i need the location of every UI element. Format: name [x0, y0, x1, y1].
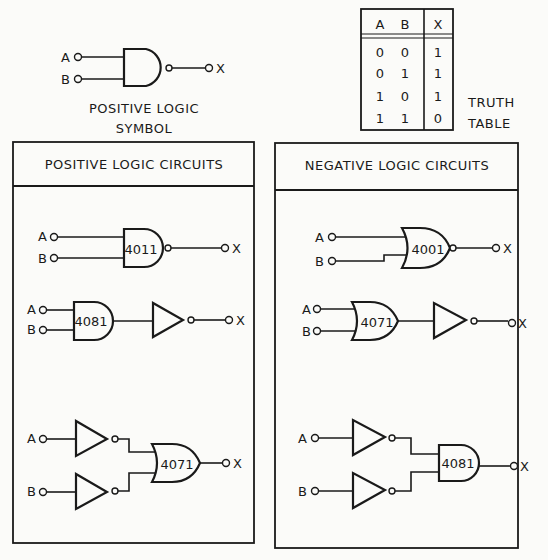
negative-circuit-4071: A B 4071 X — [302, 302, 527, 340]
output-label: X — [232, 241, 241, 256]
positive-logic-panel: POSITIVE LOGIC CIRCUITS A B 4011 X A B 4 — [13, 142, 254, 543]
positive-logic-symbol: A B X POSITIVE LOGIC SYMBOL — [61, 49, 225, 136]
inverter-icon — [76, 474, 107, 509]
input-b-label: B — [298, 484, 307, 499]
positive-circuit-4081: A B 4081 X — [27, 302, 245, 340]
truth-table-header-a: A — [376, 17, 385, 32]
positive-circuit-4071: A B 4071 X — [27, 421, 242, 509]
symbol-output-label: X — [216, 61, 225, 76]
symbol-caption-line2: SYMBOL — [116, 121, 173, 136]
negative-circuit-4001: A B 4001 X — [315, 228, 512, 269]
output-label: X — [520, 459, 529, 474]
truth-table-cell: 1 — [434, 89, 442, 104]
chip-label: 4081 — [441, 456, 474, 471]
positive-circuit-4011: A B 4011 X — [38, 229, 241, 267]
input-a-label: A — [302, 302, 311, 317]
truth-table: A B X 0 0 1 0 1 1 1 0 1 1 1 0 TRUTH TABL… — [361, 9, 515, 131]
input-terminal-icon — [75, 54, 82, 61]
logic-diagram: A B X POSITIVE LOGIC SYMBOL A B X 0 0 1 … — [0, 0, 548, 560]
inverter-icon — [153, 303, 183, 337]
symbol-input-b-label: B — [61, 72, 70, 87]
truth-table-cell: 1 — [434, 45, 442, 60]
truth-table-cell: 0 — [401, 89, 409, 104]
inverter-icon — [353, 420, 385, 455]
chip-label: 4001 — [411, 242, 444, 257]
truth-table-cell: 1 — [434, 66, 442, 81]
positive-panel-title: POSITIVE LOGIC CIRCUITS — [45, 157, 224, 172]
input-a-label: A — [315, 230, 324, 245]
chip-label: 4071 — [360, 315, 393, 330]
input-terminal-icon — [75, 76, 82, 83]
output-label: X — [518, 316, 527, 331]
symbol-input-a-label: A — [61, 50, 70, 65]
chip-label: 4081 — [74, 314, 107, 329]
truth-table-cell: 0 — [401, 45, 409, 60]
nand-gate-icon — [124, 49, 161, 86]
input-a-label: A — [27, 431, 36, 446]
truth-table-cell: 1 — [376, 89, 384, 104]
input-b-label: B — [315, 254, 324, 269]
input-a-label: A — [38, 229, 47, 244]
inverter-icon — [76, 421, 107, 456]
truth-table-header-x: X — [434, 17, 443, 32]
truth-table-cell: 0 — [434, 111, 442, 126]
input-b-label: B — [27, 484, 36, 499]
truth-table-cell: 0 — [376, 66, 384, 81]
truth-table-cell: 0 — [376, 45, 384, 60]
negative-circuit-4081: A B 4081 X — [298, 420, 529, 508]
truth-table-caption-line2: TABLE — [467, 116, 511, 131]
truth-table-cell: 1 — [401, 66, 409, 81]
truth-table-header-b: B — [401, 17, 410, 32]
output-label: X — [236, 313, 245, 328]
negative-logic-panel: NEGATIVE LOGIC CIRCUITS A B 4001 X A B 4 — [275, 143, 529, 548]
chip-label: 4011 — [124, 242, 157, 257]
input-b-label: B — [302, 324, 311, 339]
input-a-label: A — [27, 302, 36, 317]
symbol-caption-line1: POSITIVE LOGIC — [89, 101, 199, 116]
inverter-icon — [353, 473, 385, 508]
output-label: X — [233, 456, 242, 471]
output-terminal-icon — [206, 65, 213, 72]
truth-table-cell: 1 — [376, 111, 384, 126]
input-b-label: B — [38, 251, 47, 266]
chip-label: 4071 — [160, 457, 193, 472]
inverter-icon — [434, 303, 466, 338]
output-label: X — [503, 241, 512, 256]
inversion-bubble-icon — [166, 65, 172, 71]
negative-panel-title: NEGATIVE LOGIC CIRCUITS — [305, 158, 489, 173]
input-a-label: A — [298, 431, 307, 446]
input-b-label: B — [27, 322, 36, 337]
truth-table-caption-line1: TRUTH — [467, 95, 515, 110]
truth-table-cell: 1 — [401, 111, 409, 126]
